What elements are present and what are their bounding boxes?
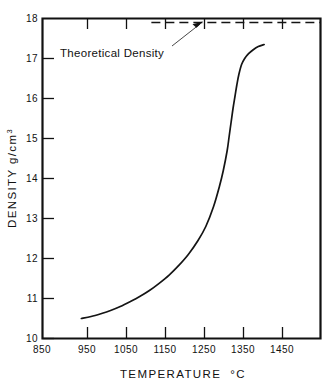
x-axis-title-main: TEMPERATURE [120,368,221,380]
axes-rectangle [43,19,321,339]
x-axis-title-units: °C [230,368,246,380]
y-axis-title-main: DENSITY g/cm [6,134,18,229]
y-tick-label-15: 15 [26,133,38,144]
y-tick-label-10: 10 [26,333,38,344]
x-axis-tick-labels: 850 950 1050 1150 1250 1350 1450 [33,344,294,355]
chart-svg: 18 17 16 15 14 13 12 11 10 [0,0,335,387]
x-tick-label-1350: 1350 [231,344,255,355]
x-tick-label-850: 850 [33,344,51,355]
x-axis-top-ticks [88,19,283,30]
y-tick-label-18: 18 [26,13,38,24]
x-tick-label-1250: 1250 [192,344,216,355]
y-axis-ticks [43,59,55,339]
density-vs-temperature-chart: 18 17 16 15 14 13 12 11 10 [0,0,335,387]
x-tick-label-1450: 1450 [270,344,294,355]
x-tick-label-950: 950 [78,344,96,355]
leader-line [172,24,200,46]
y-tick-label-17: 17 [26,53,38,64]
y-axis-title-superscript: 3 [5,128,14,134]
y-tick-label-12: 12 [26,253,38,264]
density-curve [81,45,264,319]
x-axis-title: TEMPERATURE°C [120,368,246,380]
y-tick-label-16: 16 [26,93,38,104]
plot-frame [43,19,321,339]
y-axis-title: DENSITY g/cm3 [5,128,18,228]
y-axis-tick-labels: 18 17 16 15 14 13 12 11 10 [26,13,38,344]
y-tick-label-11: 11 [27,293,38,304]
x-axis-ticks [88,327,283,339]
theoretical-density-leader [172,22,203,47]
x-tick-label-1150: 1150 [153,344,176,355]
x-tick-label-1050: 1050 [114,344,138,355]
y-tick-label-13: 13 [26,213,38,224]
theoretical-density-label: Theoretical Density [60,47,164,59]
y-tick-label-14: 14 [26,173,38,184]
